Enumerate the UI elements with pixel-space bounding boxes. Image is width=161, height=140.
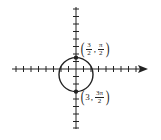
- comma: ,: [91, 92, 93, 102]
- open-paren: (: [81, 89, 85, 105]
- theta-fraction: 3π 2: [95, 90, 104, 105]
- label-point-top: ( 3 2 , π 2 ): [80, 41, 110, 57]
- open-paren: (: [81, 41, 85, 57]
- comma: ,: [94, 44, 96, 54]
- close-paren: ): [106, 89, 110, 105]
- polar-graph: [0, 0, 161, 140]
- r-denominator: 2: [87, 50, 91, 57]
- theta-fraction: π 2: [98, 42, 104, 57]
- theta-denominator: 2: [98, 98, 102, 105]
- r-value: 3: [85, 92, 90, 102]
- theta-denominator: 2: [99, 50, 103, 57]
- point-bottom: [74, 89, 78, 93]
- close-paren: ): [105, 41, 109, 57]
- point-top: [74, 55, 78, 59]
- r-fraction: 3 2: [86, 42, 92, 57]
- y-axis: [73, 7, 79, 129]
- x-axis: [12, 66, 143, 72]
- label-point-bottom: ( 3 , 3π 2 ): [80, 89, 110, 105]
